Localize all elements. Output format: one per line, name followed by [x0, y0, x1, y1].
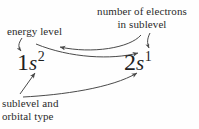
- label-number-of-electrons-line1: number of electrons: [89, 5, 195, 18]
- label-energy-level: energy level: [7, 25, 62, 38]
- label-number-of-electrons-line2: in sublevel: [89, 18, 195, 31]
- label-sublevel-and-orbital-type-line1: sublevel and: [2, 97, 59, 110]
- energy-level-number-left: 1: [17, 49, 29, 75]
- electron-count-right: 1: [145, 49, 152, 64]
- label-sublevel-and-orbital-type-line2: orbital type: [2, 110, 59, 123]
- electron-configuration-right: 2s1: [124, 50, 152, 75]
- label-number-of-electrons: number of electrons in sublevel: [89, 5, 195, 30]
- energy-level-number-right: 2: [124, 49, 136, 75]
- electron-count-left: 2: [38, 49, 45, 64]
- label-sublevel-and-orbital-type: sublevel and orbital type: [2, 97, 59, 122]
- leader-electrons-to-superscript-right: [148, 33, 150, 48]
- orbital-type-right: s: [136, 51, 144, 75]
- orbital-type-left: s: [29, 51, 37, 75]
- leader-sublevel-to-right-orbital: [23, 73, 137, 97]
- leader-sublevel-to-left-orbital: [20, 73, 35, 94]
- electron-configuration-left: 1s2: [17, 50, 45, 75]
- electron-configuration-diagram: energy level number of electrons in subl…: [0, 0, 199, 129]
- leader-electrons-to-superscript-left: [60, 35, 141, 50]
- leader-crossing-right: [36, 44, 138, 57]
- label-energy-level-line1: energy level: [7, 25, 62, 38]
